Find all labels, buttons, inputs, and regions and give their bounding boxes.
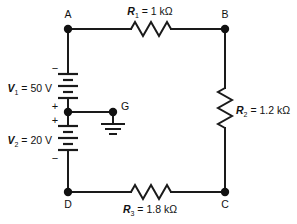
resistor-r1-label: R1 = 1 kΩ	[127, 5, 172, 19]
v1-equals: =	[18, 82, 30, 94]
r1-equals: =	[139, 5, 151, 17]
node-label-b: B	[221, 8, 228, 20]
r2-equals: =	[248, 104, 260, 116]
v2-value: 20 V	[30, 134, 52, 146]
node-dot-a	[64, 25, 72, 33]
node-dot-d	[64, 188, 72, 196]
resistor-r2-label: R2 = 1.2 kΩ	[236, 104, 290, 118]
node-dot-junction	[64, 108, 72, 116]
node-label-a: A	[64, 8, 71, 20]
resistor-r3-label: R3 = 1.8 kΩ	[123, 203, 177, 217]
node-label-d: D	[64, 198, 72, 210]
branch-bottom-d-c	[68, 185, 225, 199]
resistor-r3-zigzag	[131, 185, 171, 199]
v1-value: 50 V	[30, 82, 52, 94]
battery-v1-symbol	[58, 74, 78, 98]
r3-value: 1.8 kΩ	[146, 203, 177, 215]
r3-equals: =	[134, 203, 146, 215]
v2-bottom-polarity-sign: −	[52, 152, 58, 164]
circuit-svg-canvas: A B C D G R1 = 1 kΩ R2 = 1.2 kΩ R3 = 1.8…	[0, 0, 297, 224]
node-dot-c	[221, 188, 229, 196]
r1-value: 1 kΩ	[151, 5, 173, 17]
node-label-g: G	[121, 100, 129, 112]
battery-v2-symbol	[58, 126, 78, 150]
source-v1-label: V1 = 50 V	[8, 82, 53, 96]
branch-right-b-c	[218, 29, 232, 192]
node-dot-ground	[109, 108, 117, 116]
v1-top-polarity-sign: −	[52, 62, 58, 74]
v2-top-polarity-sign: +	[52, 114, 58, 126]
node-dot-b	[221, 25, 229, 33]
node-label-c: C	[221, 198, 229, 210]
circuit-diagram: A B C D G R1 = 1 kΩ R2 = 1.2 kΩ R3 = 1.8…	[0, 0, 297, 224]
v2-equals: =	[18, 134, 30, 146]
r2-value: 1.2 kΩ	[259, 104, 290, 116]
v1-bottom-polarity-sign: +	[52, 100, 58, 112]
source-v2-label: V2 = 20 V	[8, 134, 53, 148]
resistor-r1-zigzag	[131, 22, 171, 36]
resistor-r2-zigzag	[218, 88, 232, 128]
ground-icon	[101, 124, 125, 134]
branch-top-a-b	[68, 22, 225, 36]
branch-ground	[68, 112, 125, 134]
